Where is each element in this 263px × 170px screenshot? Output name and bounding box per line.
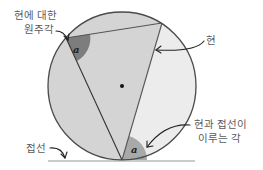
- angle-label-bottom: a: [131, 144, 137, 155]
- label-inscribed-angle-line2: 원주각: [24, 23, 54, 35]
- label-tangent-chord-angle-line2: 이루는 각: [198, 132, 241, 144]
- label-tangent-chord-angle-line1: 현과 접선이: [194, 118, 247, 130]
- angle-label-top: a: [73, 44, 79, 55]
- label-chord: 현: [206, 34, 216, 46]
- label-inscribed-angle-line1: 현에 대한: [14, 9, 57, 21]
- circle-theorem-diagram: a a 현에 대한 원주각 현 현과 접선이 이루는 각 접선: [0, 0, 263, 170]
- center-dot: [120, 84, 124, 88]
- label-tangent: 접선: [26, 142, 46, 154]
